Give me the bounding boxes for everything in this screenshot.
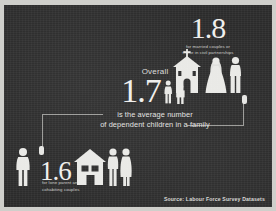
couple-figures-icon	[107, 147, 133, 187]
adult-figure-icon	[164, 81, 171, 104]
married-value: 1.8	[152, 13, 264, 43]
lone-parent-figure-icon	[14, 147, 32, 187]
partner-one-icon	[108, 148, 118, 186]
infographic-panel: 1.8 for married couples or those in civi…	[0, 0, 276, 211]
adult-child-figures-icon	[163, 79, 189, 105]
overall-value: 1.7	[121, 74, 161, 108]
source-label: Source: Labour Force Survey Datasets	[164, 196, 265, 202]
house-icon	[74, 149, 106, 185]
child-figure-icon	[176, 84, 184, 104]
partner-two-icon	[120, 148, 131, 186]
connector-marker-married	[242, 95, 247, 104]
infographic-canvas: 1.8 for married couples or those in civi…	[4, 5, 272, 207]
overall-value-row: 1.7	[80, 74, 230, 108]
cohabiting-caption-line2: cohabiting couples	[42, 187, 114, 193]
stat-group-cohabiting: 1.6 for lone parent and cohabiting coupl…	[12, 141, 136, 193]
groom-icon	[230, 57, 241, 93]
